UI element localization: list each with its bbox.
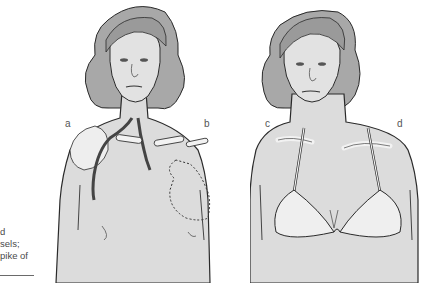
caption-line: sels;	[0, 238, 40, 250]
figure-right-bra	[250, 0, 422, 283]
figure-label-d: d	[397, 119, 403, 129]
figure-label-a: a	[65, 119, 71, 129]
caption-fragment: d sels; pike of	[0, 226, 40, 262]
figure-label-b: b	[204, 119, 210, 129]
figure-label-c: c	[265, 119, 270, 129]
caption-line: pike of	[0, 250, 40, 262]
caption-line: d	[0, 226, 40, 238]
caption-divider	[0, 275, 34, 276]
figure-left-anatomy	[40, 0, 230, 283]
